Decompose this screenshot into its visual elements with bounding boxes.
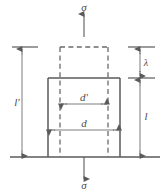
strain-diagram-figure: σ σ l′ λ l d′ d (0, 0, 167, 191)
label-elongation: λ (143, 57, 149, 68)
label-height-original: l (144, 110, 147, 122)
label-stress-top: σ (81, 1, 87, 13)
label-width-original: d (81, 117, 87, 129)
diagram-canvas: σ σ l′ λ l d′ d (0, 0, 167, 191)
label-stress-bottom: σ (81, 179, 87, 191)
label-width-deformed: d′ (80, 91, 89, 103)
label-height-deformed: l′ (14, 96, 20, 108)
